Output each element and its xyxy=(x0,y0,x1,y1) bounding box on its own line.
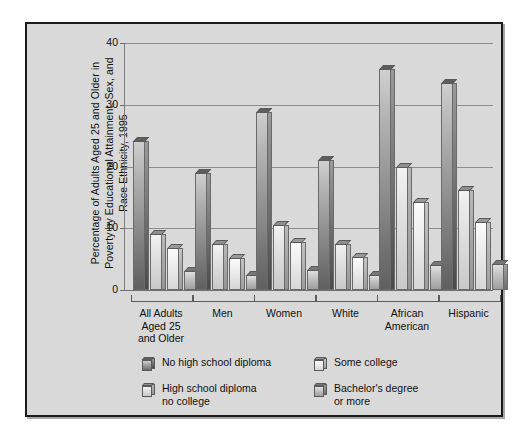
bar xyxy=(150,234,162,290)
bar xyxy=(475,222,487,290)
legend-item: No high school diploma xyxy=(142,356,271,371)
y-tick-label: 20 xyxy=(106,160,118,172)
bar-side xyxy=(453,83,457,290)
legend-swatch-face xyxy=(314,360,324,371)
legend-label: High school diploma no college xyxy=(162,382,257,407)
legend-swatch-side xyxy=(324,358,327,369)
legend-swatch xyxy=(314,383,327,397)
bar-face xyxy=(441,83,453,290)
bar-face xyxy=(273,225,285,290)
bar-face xyxy=(352,257,364,290)
bar-side xyxy=(285,225,289,290)
bar-side xyxy=(224,244,228,290)
bar xyxy=(458,190,470,290)
bar xyxy=(256,112,268,290)
bar xyxy=(167,248,179,290)
category-bracket xyxy=(193,295,255,302)
y-tick-label: 30 xyxy=(106,98,118,110)
legend-label: Some college xyxy=(334,356,398,369)
bar-face xyxy=(195,173,207,290)
bar-group xyxy=(133,43,189,290)
chart-legend: No high school diplomaHigh school diplom… xyxy=(142,356,472,412)
y-tick-mark xyxy=(120,167,125,168)
bar-side xyxy=(268,112,272,290)
bar-face xyxy=(318,160,330,290)
y-tick-mark xyxy=(120,105,125,106)
bar xyxy=(396,167,408,291)
legend-swatch-side xyxy=(324,384,327,395)
bar-side xyxy=(145,141,149,290)
y-tick-mark xyxy=(120,43,125,44)
bar-face xyxy=(335,244,347,290)
legend-label: Bachelor's degree or more xyxy=(334,382,418,407)
bar-face xyxy=(290,242,302,290)
bar-group xyxy=(441,43,497,290)
bar-side xyxy=(330,160,334,290)
category-bracket xyxy=(316,295,378,302)
y-tick-label: 40 xyxy=(106,36,118,48)
bar xyxy=(195,173,207,290)
bar-side xyxy=(162,234,166,290)
bar-side xyxy=(302,242,306,290)
legend-swatch-side xyxy=(152,384,155,395)
legend-swatch-face xyxy=(142,360,152,371)
legend-swatch-face xyxy=(314,386,324,397)
bar-group xyxy=(379,43,435,290)
y-tick-label: 10 xyxy=(106,221,118,233)
bar xyxy=(413,202,425,290)
bar-group xyxy=(318,43,374,290)
chart-frame: Percentage of Adults Aged 25 and Older i… xyxy=(25,22,503,417)
bar xyxy=(133,141,145,290)
y-tick-mark xyxy=(120,290,125,291)
category-bracket xyxy=(377,295,439,302)
legend-swatch-face xyxy=(142,386,152,397)
axis-baseline xyxy=(125,290,493,291)
category-bracket xyxy=(254,295,316,302)
bar-side xyxy=(504,264,508,290)
legend-item: High school diploma no college xyxy=(142,382,257,407)
plot-area: 010203040 xyxy=(124,43,492,290)
bar-side xyxy=(425,202,429,290)
bar-face xyxy=(379,69,391,290)
bar-side xyxy=(207,173,211,290)
legend-swatch xyxy=(142,357,155,371)
bar-face xyxy=(167,248,179,290)
bar-face xyxy=(133,141,145,290)
bar-side xyxy=(179,248,183,290)
bar-side xyxy=(364,257,368,290)
bar-side xyxy=(487,222,491,290)
bar-face xyxy=(212,244,224,290)
bar xyxy=(352,257,364,290)
bar-face xyxy=(256,112,268,290)
y-tick-mark xyxy=(120,228,125,229)
bar-group xyxy=(256,43,312,290)
bar-face xyxy=(475,222,487,290)
bar-side xyxy=(391,69,395,290)
bar xyxy=(273,225,285,290)
bar-face xyxy=(458,190,470,290)
bar-face xyxy=(396,167,408,291)
legend-swatch xyxy=(314,357,327,371)
legend-swatch xyxy=(142,383,155,397)
bar xyxy=(441,83,453,290)
bar-side xyxy=(241,258,245,290)
bar xyxy=(379,69,391,290)
legend-item: Some college xyxy=(314,356,398,371)
bar-face xyxy=(229,258,241,290)
bar xyxy=(318,160,330,290)
bar-face xyxy=(150,234,162,290)
y-tick-label: 0 xyxy=(112,283,118,295)
bar-side xyxy=(408,167,412,291)
bar xyxy=(229,258,241,290)
legend-label: No high school diploma xyxy=(162,356,271,369)
bar-face xyxy=(413,202,425,290)
bar xyxy=(492,264,504,290)
bar-side xyxy=(470,190,474,290)
category-label: Hispanic xyxy=(416,307,522,320)
legend-item: Bachelor's degree or more xyxy=(314,382,418,407)
bar-side xyxy=(347,244,351,290)
bar-face xyxy=(492,264,504,290)
category-bracket xyxy=(439,295,501,302)
bar xyxy=(335,244,347,290)
bar-group xyxy=(195,43,251,290)
